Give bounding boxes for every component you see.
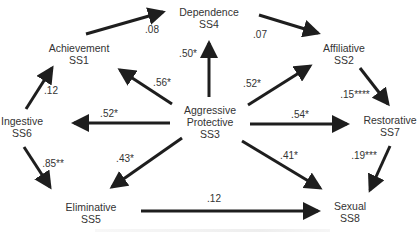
node-label: Eliminative [66, 201, 117, 213]
node-ingestive: Ingestive SS6 [1, 115, 43, 139]
weight-ss3-ss4: .50* [179, 49, 197, 59]
node-code: SS1 [49, 54, 110, 66]
weight-ss3-ss5: .43* [116, 154, 134, 164]
node-code: SS3 [184, 128, 236, 140]
weight-ss7-ss8: .19*** [351, 151, 377, 161]
node-aggressive-protective: Aggressive Protective SS3 [184, 104, 236, 140]
node-restorative: Restorative SS7 [363, 114, 416, 138]
weight-ss3-ss7: .54* [291, 110, 309, 120]
node-label: Ingestive [1, 115, 43, 127]
node-code: SS8 [334, 212, 366, 224]
path-diagram: Dependence SS4 Achievement SS1 Affiliati… [0, 0, 418, 236]
node-label-2: Protective [184, 116, 236, 128]
node-code: SS2 [323, 54, 365, 66]
weight-ss4-ss2: .07 [253, 30, 267, 40]
node-label-1: Aggressive [184, 104, 236, 116]
node-eliminative: Eliminative SS5 [66, 201, 117, 225]
node-label: Dependence [179, 6, 239, 18]
weight-ss1-ss4: .08 [145, 25, 159, 35]
node-code: SS4 [179, 18, 239, 30]
node-achievement: Achievement SS1 [49, 42, 110, 66]
node-sexual: Sexual SS8 [334, 200, 366, 224]
node-label: Affiliative [323, 42, 365, 54]
arrow-ss4-ss2 [259, 15, 318, 33]
node-dependence: Dependence SS4 [179, 6, 239, 30]
node-affiliative: Affiliative SS2 [323, 42, 365, 66]
node-code: SS7 [363, 126, 416, 138]
weight-ss3-ss6: .52* [100, 109, 118, 119]
node-label: Sexual [334, 200, 366, 212]
node-code: SS6 [1, 127, 43, 139]
node-label: Restorative [363, 114, 416, 126]
weight-ss6-ss5: .85** [42, 159, 64, 169]
faint-caption-bleedthrough [95, 229, 330, 232]
weight-ss6-ss1: .12 [44, 86, 58, 96]
node-code: SS5 [66, 213, 117, 225]
node-label: Achievement [49, 42, 110, 54]
weight-ss3-ss8: .41* [280, 151, 298, 161]
weight-ss3-ss2: .52* [243, 79, 261, 89]
weight-ss5-ss8: .12 [207, 194, 221, 204]
weight-ss2-ss7: .15**** [340, 90, 369, 100]
weight-ss3-ss1: .56* [153, 78, 171, 88]
arrow-ss3-ss8 [242, 141, 320, 188]
